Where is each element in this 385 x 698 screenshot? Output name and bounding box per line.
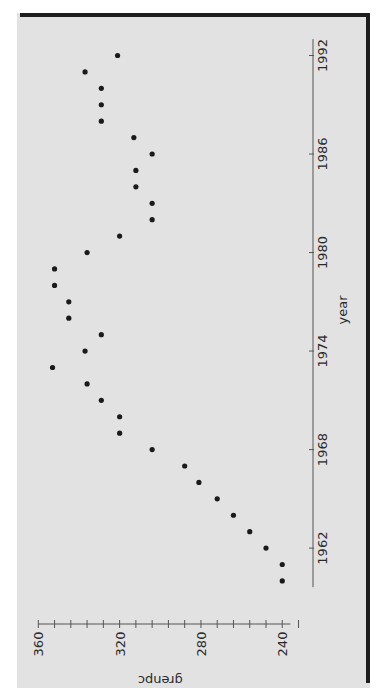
data-point [82,69,87,74]
data-point [82,348,87,353]
x-tick-label: 1974 [315,335,330,368]
x-axis-title: year [335,295,350,325]
x-tick-label: 1968 [315,433,330,466]
scatter-chart: 196219681974198019861992 240280320360 ye… [0,0,385,698]
data-point [99,332,104,337]
x-axis-year: 196219681974198019861992 [309,39,330,587]
data-point [117,414,122,419]
y-axis-title: grenpc [138,673,183,688]
data-point [117,431,122,436]
data-point [131,135,136,140]
data-point [263,546,268,551]
data-point [99,86,104,91]
y-tick-label: 360 [31,632,46,657]
data-point [133,184,138,189]
data-point [247,529,252,534]
data-point [99,102,104,107]
data-point [66,299,71,304]
data-point [150,217,155,222]
data-point [50,365,55,370]
data-point [150,201,155,206]
data-point [99,119,104,124]
data-points [50,53,285,584]
data-point [150,151,155,156]
data-point [133,168,138,173]
y-tick-label: 320 [113,632,128,657]
x-tick-label: 1992 [315,39,330,72]
data-point [52,283,57,288]
y-axis-grenpc: 240280320360 [31,620,298,656]
x-tick-label: 1962 [315,532,330,565]
y-tick-label: 280 [194,632,209,657]
data-point [84,250,89,255]
data-point [84,381,89,386]
data-point [150,447,155,452]
data-point [280,578,285,583]
data-point [231,513,236,518]
x-tick-label: 1986 [315,137,330,170]
data-point [215,496,220,501]
data-point [280,562,285,567]
data-point [52,266,57,271]
data-point [117,234,122,239]
data-point [66,316,71,321]
data-point [196,480,201,485]
data-point [115,53,120,58]
data-point [182,463,187,468]
x-tick-label: 1980 [315,236,330,269]
data-point [99,398,104,403]
y-tick-label: 240 [275,632,290,657]
